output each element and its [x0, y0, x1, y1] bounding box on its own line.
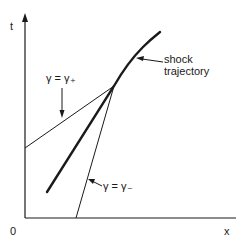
diagram-canvas	[0, 0, 236, 244]
origin-label: 0	[10, 225, 16, 237]
t-axis-label: t	[10, 20, 13, 32]
gamma-plus-label: γ = γ₊	[46, 72, 76, 84]
gamma-minus-characteristic	[76, 86, 114, 218]
shock-label-line1: shock	[164, 53, 193, 65]
x-axis-label: x	[224, 225, 230, 237]
t-axis	[22, 13, 28, 218]
gamma-plus-pointer	[60, 88, 65, 118]
gamma-plus-characteristic	[25, 86, 114, 148]
shock-label-line2: trajectory	[164, 65, 209, 77]
gamma-minus-label: γ = γ₋	[103, 180, 133, 192]
shock-pointer	[136, 56, 163, 62]
t-axis-arrow-icon	[22, 13, 28, 22]
shock-trajectory	[47, 32, 160, 192]
gamma-minus-pointer	[88, 179, 102, 186]
